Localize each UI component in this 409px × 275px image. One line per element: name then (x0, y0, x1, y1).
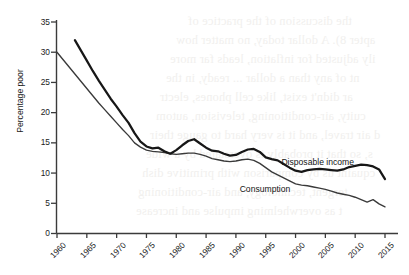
figure-container: the discussion of the practice of apter … (0, 0, 409, 275)
line-chart-plot (0, 0, 409, 275)
chart-axes (51, 20, 398, 238)
series-line-disposable-income (75, 40, 385, 179)
y-axis-tick-marks (51, 22, 57, 234)
series-line-consumption (57, 52, 385, 207)
